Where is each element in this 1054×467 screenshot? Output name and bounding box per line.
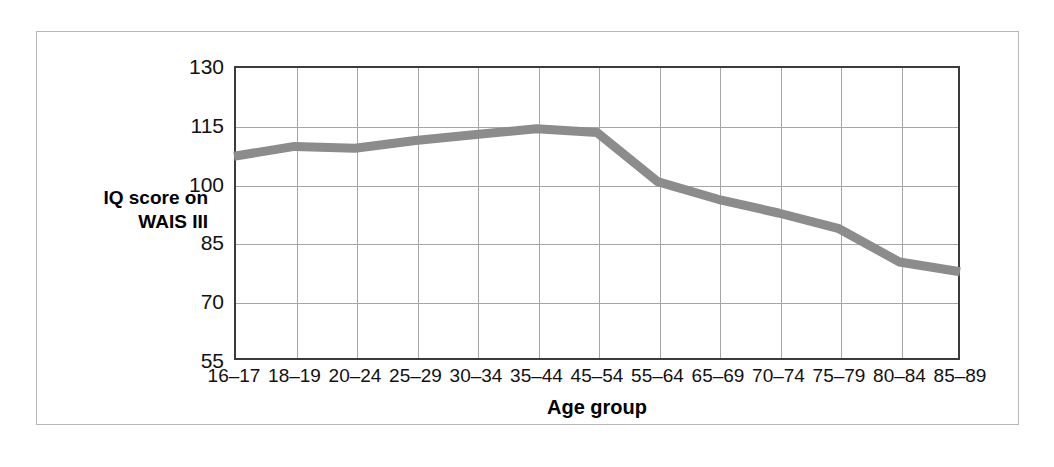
x-tick-label: 80–84 [873,366,926,385]
x-tick-label: 30–34 [450,366,503,385]
x-tick-label: 45–54 [571,366,624,385]
y-axis-title-line: IQ score on [103,187,208,208]
x-tick-label: 65–69 [692,366,745,385]
y-tick-label: 70 [162,291,224,312]
y-tick-label: 85 [162,232,224,253]
x-tick-label: 70–74 [752,366,805,385]
x-tick-label: 18–19 [268,366,321,385]
y-tick-label: 130 [162,56,224,77]
chart-figure: 130115100857055 16–1718–1920–2425–2930–3… [0,0,1054,467]
x-tick-label: 25–29 [389,366,442,385]
x-tick-label: 35–44 [510,366,563,385]
x-axis-title: Age group [234,396,960,419]
x-tick-label: 85–89 [934,366,987,385]
x-tick-label: 16–17 [208,366,261,385]
x-tick-label: 20–24 [329,366,382,385]
y-axis-title-line: WAIS III [138,211,208,232]
y-axis-title: IQ score onWAIS III [60,186,208,234]
x-tick-label: 55–64 [631,366,684,385]
x-tick-label: 75–79 [813,366,866,385]
y-tick-label: 115 [162,115,224,136]
